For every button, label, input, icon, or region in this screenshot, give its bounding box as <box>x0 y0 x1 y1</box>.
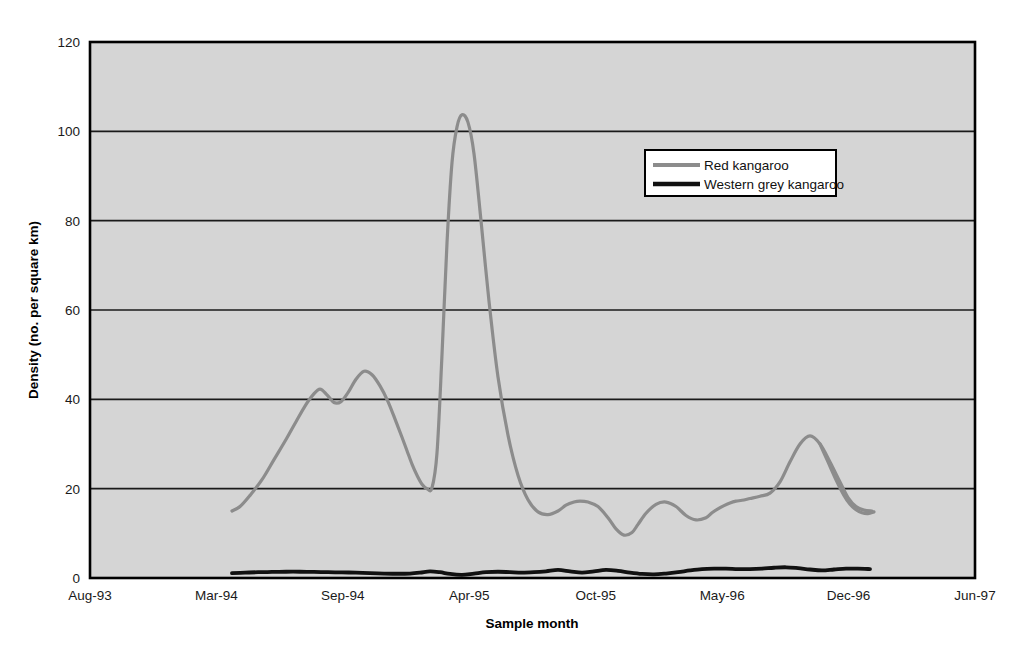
y-tick-label-20: 20 <box>65 482 80 497</box>
x-tick-label-jun-97: Jun-97 <box>954 588 995 603</box>
y-tick-label-100: 100 <box>57 124 80 139</box>
chart-figure: 020406080100120 Aug-93Mar-94Sep-94Apr-95… <box>0 0 1027 661</box>
x-tick-label-dec-96: Dec-96 <box>827 588 871 603</box>
x-tick-label-may-96: May-96 <box>700 588 745 603</box>
y-tick-label-40: 40 <box>65 392 80 407</box>
legend-label-red-kangaroo: Red kangaroo <box>704 158 789 173</box>
x-tick-label-aug-93: Aug-93 <box>68 588 112 603</box>
y-tick-label-80: 80 <box>65 214 80 229</box>
x-tick-label-apr-95: Apr-95 <box>449 588 490 603</box>
x-axis-title: Sample month <box>485 616 578 631</box>
x-tick-label-oct-95: Oct-95 <box>575 588 616 603</box>
legend-label-western-grey-kangaroo: Western grey kangaroo <box>704 177 844 192</box>
y-tick-label-60: 60 <box>65 303 80 318</box>
y-axis-title: Density (no. per square km) <box>26 221 41 399</box>
chart-legend: Red kangaroo Western grey kangaroo <box>645 150 844 196</box>
y-tick-label-120: 120 <box>57 35 80 50</box>
x-tick-label-sep-94: Sep-94 <box>321 588 365 603</box>
x-tick-label-mar-94: Mar-94 <box>195 588 238 603</box>
y-tick-label-0: 0 <box>72 571 80 586</box>
kangaroo-density-line-chart: 020406080100120 Aug-93Mar-94Sep-94Apr-95… <box>0 0 1027 661</box>
